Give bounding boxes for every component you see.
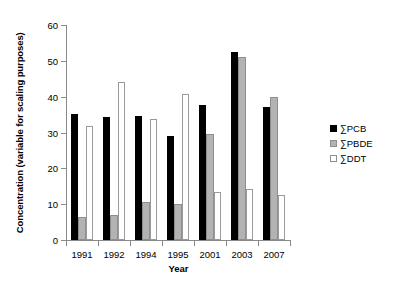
bar-2007-ddt <box>278 195 285 240</box>
x-axis-tick <box>290 241 291 246</box>
y-axis-tick-label-text: 0 <box>36 236 58 246</box>
legend-swatch-pbde-icon <box>330 140 337 147</box>
y-axis-tick-label-text: 20 <box>36 164 58 174</box>
y-axis-tick-label: 50 <box>36 61 58 71</box>
y-axis-tick-label: 10 <box>36 204 58 214</box>
y-axis-tick-label: 60 <box>36 25 58 35</box>
x-axis-tick <box>98 241 99 246</box>
x-axis-tick <box>194 241 195 246</box>
bar-chart-figure: Concentration (variable for scaling purp… <box>0 0 399 301</box>
legend-swatch-pcb-icon <box>330 125 337 132</box>
bar-1995-pbde <box>174 204 181 240</box>
legend-label-pbde: ∑PBDE <box>340 139 373 149</box>
y-axis-tick-label-text: 30 <box>36 128 58 138</box>
x-axis-title: Year <box>66 263 291 274</box>
legend-label-pcb: ∑PCB <box>340 124 366 134</box>
bar-1995-ddt <box>182 94 189 240</box>
legend-item-pcb: ∑PCB <box>330 121 396 136</box>
bar-1995-pcb <box>167 136 174 240</box>
legend-label-ddt: ∑DDT <box>340 154 366 164</box>
bar-2007-pbde <box>270 97 277 240</box>
y-axis-tick-label: 40 <box>36 97 58 107</box>
chart-legend: ∑PCB ∑PBDE ∑DDT <box>330 121 396 166</box>
x-axis-category-label: 2007 <box>254 249 294 260</box>
bar-2007-pcb <box>263 107 270 240</box>
bar-2001-ddt <box>214 192 221 240</box>
bar-1992-pcb <box>103 117 110 240</box>
bar-1994-pcb <box>135 116 142 240</box>
y-axis-tick-label: 30 <box>36 133 58 143</box>
bar-1994-ddt <box>150 119 157 240</box>
bar-1994-pbde <box>142 202 149 240</box>
plot-area <box>66 25 290 240</box>
bar-1992-pbde <box>110 215 117 240</box>
y-axis-title: Concentration (variable for scaling purp… <box>2 20 36 245</box>
x-axis-tick <box>258 241 259 246</box>
legend-item-ddt: ∑DDT <box>330 151 396 166</box>
x-axis-tick <box>66 241 67 246</box>
bar-1991-pbde <box>78 217 85 240</box>
bar-2003-ddt <box>246 189 253 240</box>
y-axis-tick-label-text: 60 <box>36 21 58 31</box>
x-axis-tick <box>226 241 227 246</box>
y-axis-tick-label: 20 <box>36 168 58 178</box>
bar-1991-pcb <box>71 114 78 240</box>
bar-1992-ddt <box>118 82 125 240</box>
y-axis-tick-label-text: 40 <box>36 92 58 102</box>
bar-2001-pbde <box>206 134 213 240</box>
legend-swatch-ddt-icon <box>330 155 337 162</box>
x-axis-tick <box>130 241 131 246</box>
legend-item-pbde: ∑PBDE <box>330 136 396 151</box>
bar-2003-pbde <box>238 57 245 240</box>
y-axis-tick-label-text: 50 <box>36 56 58 66</box>
bar-1991-ddt <box>86 126 93 240</box>
bar-2003-pcb <box>231 52 238 240</box>
x-axis-tick <box>162 241 163 246</box>
bar-2001-pcb <box>199 105 206 240</box>
y-axis-tick-label-text: 10 <box>36 200 58 210</box>
y-axis-tick-label: 0 <box>36 240 58 250</box>
y-axis-title-text: Concentration (variable for scaling purp… <box>13 32 25 233</box>
